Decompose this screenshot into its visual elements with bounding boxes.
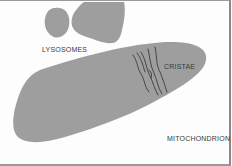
lysosome-large	[72, 2, 125, 43]
lysosomes-label: LYSOSOMES	[42, 46, 87, 53]
lysosome-small	[45, 8, 70, 38]
cristae-label: CRISTAE	[164, 63, 195, 70]
mitochondrion-body	[13, 42, 206, 142]
mitochondrion-label: MITOCHONDRION	[167, 135, 230, 142]
